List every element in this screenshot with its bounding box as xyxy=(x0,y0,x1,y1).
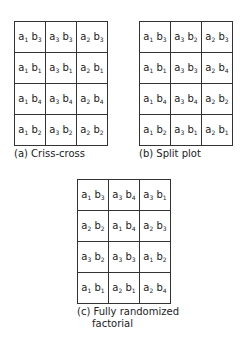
treatment-cell: a2 b1 xyxy=(77,53,108,84)
grid-row: a1 b3a3 b3a2 b3 xyxy=(15,22,108,53)
grid-row: a1 b3a3 b2a2 b3 xyxy=(140,22,233,53)
treatment-cell: a3 b3 xyxy=(46,22,77,53)
grid-row: a1 b2a3 b2a2 b2 xyxy=(15,115,108,146)
treatment-cell: a3 b4 xyxy=(109,180,140,211)
treatment-label: a3 b4 xyxy=(174,93,197,104)
grid-row: a3 b2a3 b3a1 b2 xyxy=(78,242,171,273)
panel-caption: (a) Criss-cross xyxy=(14,148,108,160)
treatment-cell: a2 b3 xyxy=(77,22,108,53)
grid-row: a1 b1a2 b1a2 b4 xyxy=(78,273,171,304)
treatment-label: a2 b4 xyxy=(143,282,166,293)
grid-row: a1 b1a3 b3a2 b4 xyxy=(140,53,233,84)
treatment-cell: a2 b1 xyxy=(202,115,233,146)
treatment-label: a2 b2 xyxy=(80,124,103,135)
treatment-label: a3 b3 xyxy=(174,62,197,73)
treatment-cell: a1 b2 xyxy=(140,242,171,273)
treatment-cell: a2 b3 xyxy=(140,211,171,242)
treatment-label: a2 b4 xyxy=(205,62,228,73)
treatment-cell: a3 b3 xyxy=(109,242,140,273)
treatment-label: a3 b3 xyxy=(49,31,72,42)
grid-row: a2 b2a1 b4a2 b3 xyxy=(78,211,171,242)
grid-row: a1 b1a3 b1a2 b1 xyxy=(15,53,108,84)
treatment-cell: a1 b2 xyxy=(15,115,46,146)
treatment-cell: a3 b2 xyxy=(46,115,77,146)
treatment-cell: a1 b3 xyxy=(78,180,109,211)
treatment-label: a1 b3 xyxy=(81,189,104,200)
treatment-cell: a3 b2 xyxy=(171,22,202,53)
treatment-label: a1 b2 xyxy=(143,251,166,262)
treatment-label: a2 b1 xyxy=(112,282,135,293)
treatment-cell: a2 b2 xyxy=(78,211,109,242)
treatment-cell: a3 b3 xyxy=(171,53,202,84)
treatment-cell: a1 b4 xyxy=(15,84,46,115)
panel-caption: (b) Split plot xyxy=(139,148,233,160)
treatment-cell: a3 b1 xyxy=(140,180,171,211)
treatment-label: a2 b2 xyxy=(81,220,104,231)
treatment-label: a1 b1 xyxy=(81,282,104,293)
treatment-label: a2 b2 xyxy=(205,93,228,104)
treatment-label: a1 b2 xyxy=(143,124,166,135)
treatment-cell: a1 b1 xyxy=(140,53,171,84)
treatment-cell: a3 b4 xyxy=(171,84,202,115)
treatment-cell: a2 b2 xyxy=(202,84,233,115)
treatment-cell: a2 b4 xyxy=(77,84,108,115)
treatment-cell: a2 b2 xyxy=(77,115,108,146)
treatment-label: a3 b2 xyxy=(49,124,72,135)
treatment-cell: a3 b4 xyxy=(46,84,77,115)
treatment-label: a3 b4 xyxy=(112,189,135,200)
treatment-label: a3 b3 xyxy=(112,251,135,262)
grid-row: a1 b3a3 b4a3 b1 xyxy=(78,180,171,211)
treatment-cell: a2 b4 xyxy=(202,53,233,84)
grid-row: a1 b4a3 b4a2 b4 xyxy=(15,84,108,115)
treatment-cell: a1 b4 xyxy=(109,211,140,242)
treatment-label: a2 b3 xyxy=(205,31,228,42)
treatment-cell: a1 b1 xyxy=(78,273,109,304)
grid-row: a1 b2a3 b1a2 b1 xyxy=(140,115,233,146)
treatment-label: a3 b1 xyxy=(174,124,197,135)
treatment-cell: a3 b1 xyxy=(46,53,77,84)
panel-criss-cross: a1 b3a3 b3a2 b3a1 b1a3 b1a2 b1a1 b4a3 b4… xyxy=(14,21,108,160)
grid-row: a1 b4a3 b4a2 b2 xyxy=(140,84,233,115)
treatment-label: a1 b4 xyxy=(112,220,135,231)
treatment-label: a2 b4 xyxy=(80,93,103,104)
treatment-label: a1 b1 xyxy=(18,62,41,73)
treatment-label: a3 b2 xyxy=(81,251,104,262)
treatment-label: a2 b3 xyxy=(80,31,103,42)
treatment-cell: a2 b3 xyxy=(202,22,233,53)
treatment-label: a1 b4 xyxy=(18,93,41,104)
treatment-cell: a3 b2 xyxy=(78,242,109,273)
treatment-label: a1 b4 xyxy=(143,93,166,104)
plot-grid: a1 b3a3 b3a2 b3a1 b1a3 b1a2 b1a1 b4a3 b4… xyxy=(14,21,108,146)
treatment-cell: a1 b4 xyxy=(140,84,171,115)
plot-grid: a1 b3a3 b2a2 b3a1 b1a3 b3a2 b4a1 b4a3 b4… xyxy=(139,21,233,146)
treatment-label: a1 b2 xyxy=(18,124,41,135)
treatment-label: a1 b3 xyxy=(143,31,166,42)
treatment-cell: a1 b3 xyxy=(140,22,171,53)
treatment-cell: a1 b1 xyxy=(15,53,46,84)
treatment-label: a1 b1 xyxy=(143,62,166,73)
plot-grid: a1 b3a3 b4a3 b1a2 b2a1 b4a2 b3a3 b2a3 b3… xyxy=(77,179,171,304)
treatment-label: a1 b3 xyxy=(18,31,41,42)
panel-fully-randomized-factorial: a1 b3a3 b4a3 b1a2 b2a1 b4a2 b3a3 b2a3 b3… xyxy=(77,179,179,330)
treatment-cell: a3 b1 xyxy=(171,115,202,146)
panel-split-plot: a1 b3a3 b2a2 b3a1 b1a3 b3a2 b4a1 b4a3 b4… xyxy=(139,21,233,160)
treatment-label: a2 b1 xyxy=(80,62,103,73)
caption-line-2: factorial xyxy=(77,318,179,330)
panel-caption: (c) Fully randomized factorial xyxy=(77,306,179,330)
treatment-label: a2 b1 xyxy=(205,124,228,135)
treatment-label: a2 b3 xyxy=(143,220,166,231)
treatment-label: a3 b1 xyxy=(143,189,166,200)
treatment-label: a3 b1 xyxy=(49,62,72,73)
treatment-label: a3 b2 xyxy=(174,31,197,42)
treatment-cell: a2 b1 xyxy=(109,273,140,304)
treatment-cell: a2 b4 xyxy=(140,273,171,304)
caption-line-1: (c) Fully randomized xyxy=(77,306,179,317)
treatment-cell: a1 b2 xyxy=(140,115,171,146)
treatment-label: a3 b4 xyxy=(49,93,72,104)
treatment-cell: a1 b3 xyxy=(15,22,46,53)
